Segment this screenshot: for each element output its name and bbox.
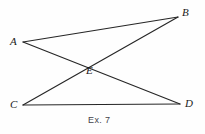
segment-group [23, 17, 180, 105]
vertex-label-d: D [185, 98, 193, 109]
figure-caption: Ex. 7 [88, 115, 111, 125]
segment-cb [23, 17, 178, 105]
vertex-label-c: C [10, 99, 17, 110]
segment-cd [23, 104, 180, 105]
vertex-label-e: E [86, 65, 93, 76]
vertex-label-a: A [10, 36, 17, 47]
segment-ab [23, 17, 178, 42]
vertex-label-b: B [182, 7, 189, 18]
diagram-canvas [0, 0, 205, 134]
segment-ad [23, 42, 180, 104]
geometry-figure: A B C D E Ex. 7 [0, 0, 205, 134]
